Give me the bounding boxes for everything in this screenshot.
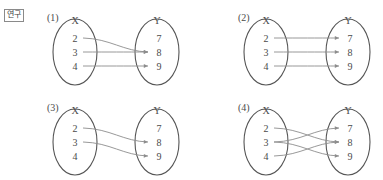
codomain-set-label: Y — [153, 105, 160, 116]
codomain-element-7: 7 — [157, 33, 162, 44]
mapping-arrow-3-to-7 — [274, 128, 339, 142]
codomain-set-label: Y — [344, 105, 351, 116]
arrowhead-3-to-8 — [144, 50, 148, 54]
domain-element-3: 3 — [73, 47, 78, 58]
codomain-element-7: 7 — [348, 33, 353, 44]
codomain-element-8: 8 — [348, 47, 353, 58]
codomain-set-label: Y — [344, 15, 351, 26]
arrowhead-4-to-9 — [144, 64, 148, 68]
codomain-element-8: 8 — [348, 137, 353, 148]
codomain-element-9: 9 — [157, 151, 162, 162]
codomain-element-7: 7 — [157, 123, 162, 134]
arrowhead-3-to-9 — [144, 154, 148, 158]
relation-diagram-panel-4: (4) XY234789 — [191, 90, 382, 180]
domain-element-2: 2 — [264, 123, 269, 134]
domain-element-4: 4 — [73, 61, 78, 72]
codomain-element-9: 9 — [348, 151, 353, 162]
domain-element-3: 3 — [264, 137, 269, 148]
diagram-canvas-2: XY234789 — [191, 0, 382, 90]
codomain-element-7: 7 — [348, 123, 353, 134]
domain-set-label: X — [71, 105, 79, 116]
mapping-arrow-4-to-8 — [274, 142, 339, 156]
diagram-canvas-4: XY234789 — [191, 90, 382, 180]
domain-set-label: X — [71, 15, 79, 26]
arrowhead-2-to-8 — [144, 140, 148, 144]
mapping-arrow-2-to-8 — [83, 38, 148, 52]
domain-element-2: 2 — [73, 123, 78, 134]
domain-set-label: X — [262, 15, 270, 26]
arrowhead-3-to-8 — [335, 50, 339, 54]
mapping-arrow-3-to-9 — [83, 142, 148, 156]
relation-diagram-panel-1: (1) XY234789 — [0, 0, 191, 90]
relation-diagram-panel-2: (2) XY234789 — [191, 0, 382, 90]
arrowhead-4-to-9 — [335, 64, 339, 68]
diagram-canvas-3: XY234789 — [0, 90, 191, 180]
domain-element-4: 4 — [264, 151, 269, 162]
arrowhead-2-to-7 — [335, 36, 339, 40]
arrowhead-3-to-9 — [335, 154, 339, 158]
diagram-canvas-1: XY234789 — [0, 0, 191, 90]
worksheet-sheet: 연구 (1) XY234789 (2) XY234789 (3) XY23478… — [0, 0, 383, 180]
domain-element-3: 3 — [264, 47, 269, 58]
domain-element-2: 2 — [73, 33, 78, 44]
arrowhead-3-to-7 — [335, 126, 339, 130]
codomain-element-9: 9 — [348, 61, 353, 72]
codomain-element-8: 8 — [157, 47, 162, 58]
relation-diagram-panel-3: (3) XY234789 — [0, 90, 191, 180]
mapping-arrow-2-to-8 — [83, 128, 148, 142]
domain-element-2: 2 — [264, 33, 269, 44]
codomain-element-8: 8 — [157, 137, 162, 148]
codomain-element-9: 9 — [157, 61, 162, 72]
domain-element-4: 4 — [73, 151, 78, 162]
domain-element-3: 3 — [73, 137, 78, 148]
domain-set-label: X — [262, 105, 270, 116]
domain-element-4: 4 — [264, 61, 269, 72]
codomain-set-label: Y — [153, 15, 160, 26]
arrowhead-4-to-8 — [335, 140, 339, 144]
